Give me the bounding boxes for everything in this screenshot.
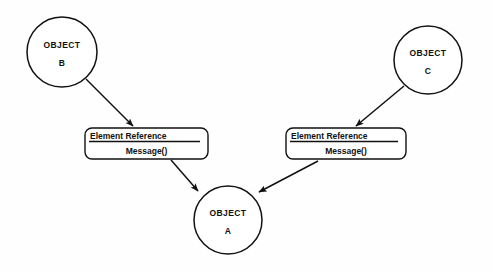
diagram-vector-layer bbox=[0, 0, 493, 273]
node-circle-object-b[interactable] bbox=[27, 17, 97, 87]
arrow-b-to-left-box bbox=[86, 79, 133, 126]
arrow-right-box-to-a bbox=[259, 161, 318, 192]
node-circle-object-a[interactable] bbox=[194, 186, 262, 254]
node-circle-object-c[interactable] bbox=[394, 26, 462, 94]
arrow-c-to-right-box bbox=[356, 86, 404, 126]
message-box-left-shape[interactable] bbox=[85, 128, 208, 159]
arrow-left-box-to-a bbox=[171, 160, 198, 191]
message-box-right-shape[interactable] bbox=[286, 128, 406, 159]
collaboration-diagram-canvas: OBJECT B OBJECT C OBJECT A Element Refer… bbox=[0, 0, 493, 273]
